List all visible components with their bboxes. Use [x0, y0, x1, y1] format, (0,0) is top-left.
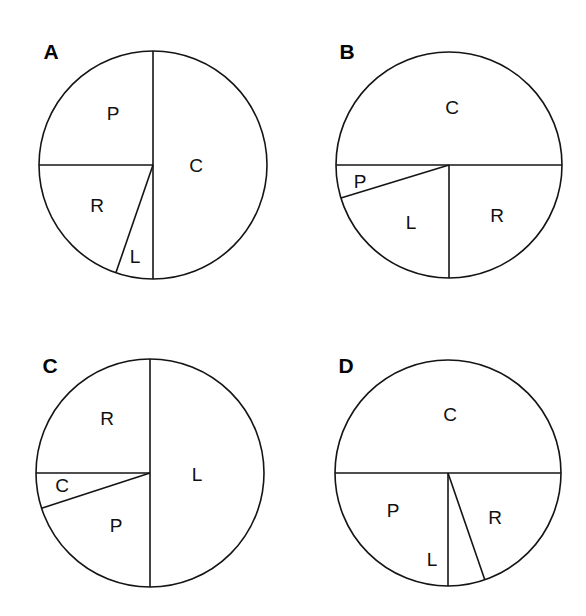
- panel-letter-b: B: [339, 40, 354, 63]
- slice-label-a-r: R: [90, 195, 104, 216]
- panel-letter-a: A: [43, 40, 58, 63]
- slice-label-d-l: L: [427, 549, 438, 570]
- slice-label-d-p: P: [387, 500, 400, 521]
- slice-label-b-p: P: [354, 171, 367, 192]
- pie-chart-figure: PCRLACPLRBRLCPCCPLRD: [0, 0, 586, 616]
- slice-label-b-c: C: [445, 97, 459, 118]
- pie-group-d: CPLRD: [335, 354, 561, 586]
- pie-group-b: CPLRB: [336, 40, 562, 278]
- panel-letter-c: C: [42, 354, 57, 377]
- slice-label-c-p: P: [110, 515, 123, 536]
- slice-label-d-c: C: [443, 404, 457, 425]
- slice-label-c-r: R: [100, 408, 114, 429]
- slice-label-d-r: R: [488, 507, 502, 528]
- pie-slice-a-c[interactable]: [153, 51, 267, 279]
- slice-label-b-l: L: [406, 212, 417, 233]
- pie-slice-c-l[interactable]: [150, 359, 264, 587]
- slice-label-c-c: C: [55, 475, 69, 496]
- slice-label-a-c: C: [189, 155, 203, 176]
- pie-slice-b-r[interactable]: [449, 165, 562, 278]
- slice-label-c-l: L: [192, 464, 203, 485]
- slice-label-a-p: P: [107, 103, 120, 124]
- pie-group-a: PCRLA: [39, 40, 267, 279]
- panel-letter-d: D: [338, 354, 353, 377]
- slice-label-b-r: R: [490, 205, 504, 226]
- pie-slice-a-p[interactable]: [39, 51, 153, 165]
- pie-group-c: RLCPC: [36, 354, 264, 587]
- slice-label-a-l: L: [130, 246, 141, 267]
- figure-canvas: PCRLACPLRBRLCPCCPLRD: [0, 0, 586, 616]
